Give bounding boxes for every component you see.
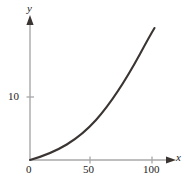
y-axis-label: y (27, 3, 32, 14)
x-axis-label: x (176, 152, 181, 163)
plot-canvas (0, 0, 184, 184)
x-tick-label-0: 0 (26, 164, 32, 175)
y-tick-label-10: 10 (8, 91, 19, 102)
x-tick-label-50: 50 (83, 164, 94, 175)
y-axis-arrowhead (26, 15, 33, 25)
x-axis-arrowhead (166, 157, 176, 164)
exponential-growth-figure: y x 0 50 100 10 (0, 0, 184, 184)
x-tick-label-100: 100 (143, 164, 160, 175)
exponential-curve (30, 28, 155, 160)
